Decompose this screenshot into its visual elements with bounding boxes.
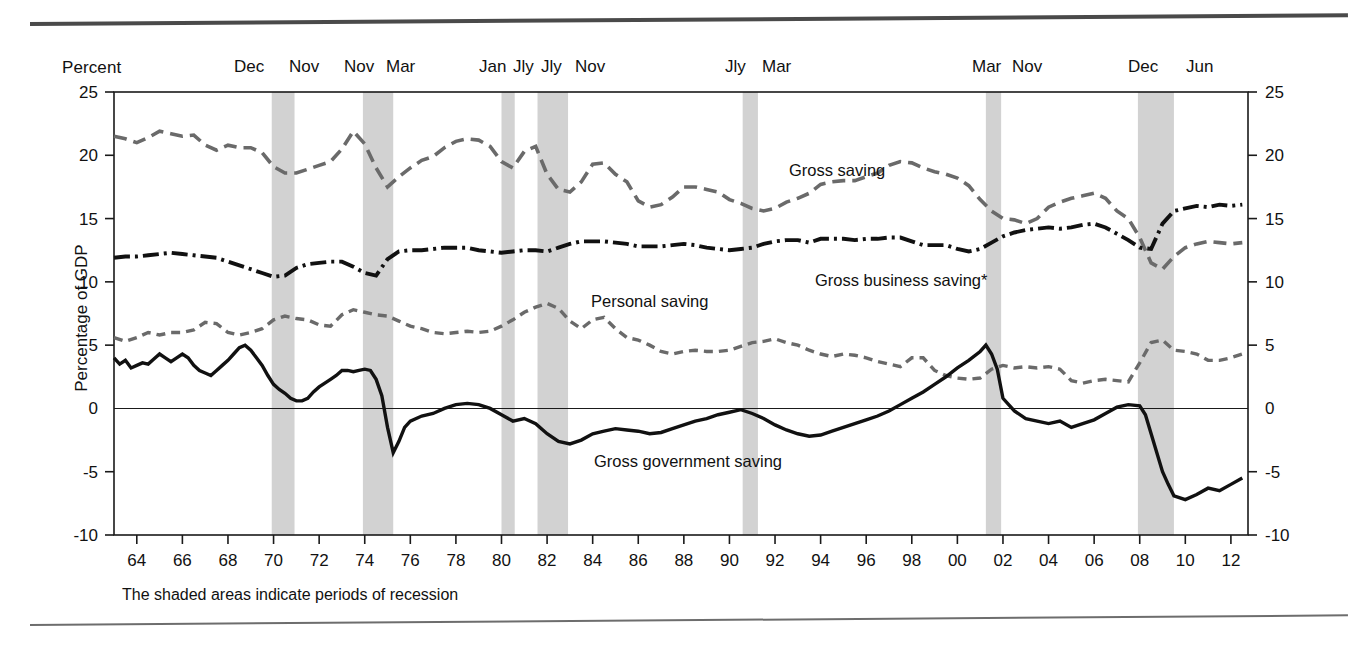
series-annotation-label: Gross business saving* [815,271,987,290]
x-tick-label: 82 [538,551,557,570]
recession-band [501,92,514,535]
x-tick-label: 84 [583,551,602,570]
y-tick-label-left: 0 [89,399,98,418]
x-tick-label: 72 [310,551,329,570]
recession-month-label: Jan [479,57,506,77]
y-tick-label-right: -5 [1265,463,1280,482]
x-tick-label: 88 [674,551,693,570]
y-tick-label-right: 25 [1265,83,1284,102]
figure-page: Percent Percentage of GDP The shaded are… [0,0,1363,648]
recession-month-label: Mar [762,57,791,77]
y-tick-label-left: 15 [79,210,98,229]
y-tick-label-left: -10 [73,526,98,545]
recession-month-label: Nov [344,57,374,77]
x-tick-label: 76 [401,551,420,570]
x-tick-label: 98 [902,551,921,570]
recession-month-label: Jly [513,57,534,77]
x-tick-label: 78 [446,551,465,570]
x-tick-label: 86 [629,551,648,570]
y-tick-label-left: 5 [89,336,98,355]
x-tick-label: 08 [1130,551,1149,570]
series-annotation-label: Personal saving [591,292,708,311]
saving-rates-line-chart: 2520151050-5-10 2520151050-5-10 64666870… [0,0,1363,648]
recession-band [272,92,295,535]
x-tick-label: 68 [219,551,238,570]
recession-band [986,92,1001,535]
x-tick-label: 94 [811,551,830,570]
y-tick-label-right: 20 [1265,146,1284,165]
y-tick-label-right: 10 [1265,273,1284,292]
recession-month-label: Jly [725,57,746,77]
y-tick-label-right: 5 [1265,336,1274,355]
series-annotation-label: Gross government saving [594,452,782,471]
x-tick-label: 80 [492,551,511,570]
x-tick-label: 12 [1221,551,1240,570]
y-axis-right-ticks: 2520151050-5-10 [1248,83,1290,545]
y-tick-label-right: -10 [1265,526,1290,545]
recession-band [1138,92,1174,535]
recession-month-label: Mar [972,57,1001,77]
x-axis-ticks: 6466687072747678808284868890929496980002… [127,535,1240,570]
x-tick-label: 90 [720,551,739,570]
recession-month-label: Nov [575,57,605,77]
x-tick-label: 64 [127,551,146,570]
x-tick-label: 92 [766,551,785,570]
x-tick-label: 96 [857,551,876,570]
recession-month-label: Nov [1012,57,1042,77]
y-tick-label-left: 20 [79,146,98,165]
x-tick-label: 02 [994,551,1013,570]
x-tick-label: 66 [173,551,192,570]
recession-month-label: Mar [386,57,415,77]
x-tick-label: 74 [355,551,374,570]
recession-month-label: Nov [289,57,319,77]
recession-month-label: Dec [1128,57,1158,77]
recession-month-label: Jun [1186,57,1213,77]
y-tick-label-right: 15 [1265,210,1284,229]
x-tick-label: 06 [1085,551,1104,570]
x-tick-label: 04 [1039,551,1058,570]
recession-month-label: Jly [541,57,562,77]
y-tick-label-left: -5 [83,463,98,482]
y-tick-label-right: 0 [1265,399,1274,418]
series-annotation-label: Gross saving [789,161,885,180]
y-tick-label-left: 10 [79,273,98,292]
x-tick-label: 70 [264,551,283,570]
x-tick-label: 00 [948,551,967,570]
x-tick-label: 10 [1176,551,1195,570]
y-axis-left-ticks: 2520151050-5-10 [73,83,114,545]
y-tick-label-left: 25 [79,83,98,102]
recession-month-label: Dec [234,57,264,77]
